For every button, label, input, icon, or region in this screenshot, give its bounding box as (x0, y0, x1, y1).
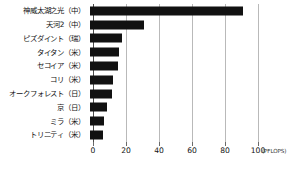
x-tick-label: 80 (220, 147, 230, 155)
bar-cell (88, 32, 300, 46)
bar (90, 48, 119, 57)
x-tick-label: 60 (187, 147, 197, 155)
bar-cell (88, 59, 300, 73)
bar-row: ピズダイント（瑞） (0, 32, 300, 46)
bar (90, 62, 118, 71)
bar (90, 20, 144, 29)
bar-cell (88, 4, 300, 18)
x-axis-ticks (93, 142, 258, 146)
bar-row: オークフォレスト（日） (0, 87, 300, 101)
bar-cell (88, 73, 300, 87)
bar-cell (88, 18, 300, 32)
bar (90, 75, 113, 84)
x-axis-unit-label: (PFLOPS) (262, 149, 286, 155)
bar-cell (88, 128, 300, 142)
bar (90, 131, 103, 140)
bar-cell (88, 45, 300, 59)
bar (90, 117, 104, 126)
bar-row: 京（日） (0, 101, 300, 115)
bar-row: トリニティ（米） (0, 128, 300, 142)
bar (90, 34, 122, 43)
bar-rows: 神威太湖之光（中）天河2（中）ピズダイント（瑞）タイタン（米）セコイア（米）コリ… (0, 4, 300, 142)
bar-cell (88, 87, 300, 101)
category-label: オークフォレスト（日） (0, 90, 88, 97)
x-tick-label: 40 (154, 147, 164, 155)
category-label: コリ（米） (0, 76, 88, 83)
bar-row: セコイア（米） (0, 59, 300, 73)
x-axis-tick-labels: 020406080100 (93, 147, 258, 159)
bar-row: ミラ（米） (0, 114, 300, 128)
bar (90, 6, 243, 15)
bar-row: タイタン（米） (0, 45, 300, 59)
bar-row: コリ（米） (0, 73, 300, 87)
x-tick-label: 20 (121, 147, 131, 155)
category-label: ミラ（米） (0, 118, 88, 125)
bar-cell (88, 101, 300, 115)
category-label: セコイア（米） (0, 62, 88, 69)
category-label: 京（日） (0, 104, 88, 111)
category-label: 天河2（中） (0, 21, 88, 28)
category-label: トリニティ（米） (0, 131, 88, 138)
bar-row: 天河2（中） (0, 18, 300, 32)
x-tick-label: 0 (91, 147, 96, 155)
bar-row: 神威太湖之光（中） (0, 4, 300, 18)
bar (90, 89, 112, 98)
category-label: タイタン（米） (0, 49, 88, 56)
category-label: ピズダイント（瑞） (0, 35, 88, 42)
category-label: 神威太湖之光（中） (0, 7, 88, 14)
bar (90, 103, 107, 112)
bar-chart: 神威太湖之光（中）天河2（中）ピズダイント（瑞）タイタン（米）セコイア（米）コリ… (0, 0, 300, 170)
bar-cell (88, 114, 300, 128)
